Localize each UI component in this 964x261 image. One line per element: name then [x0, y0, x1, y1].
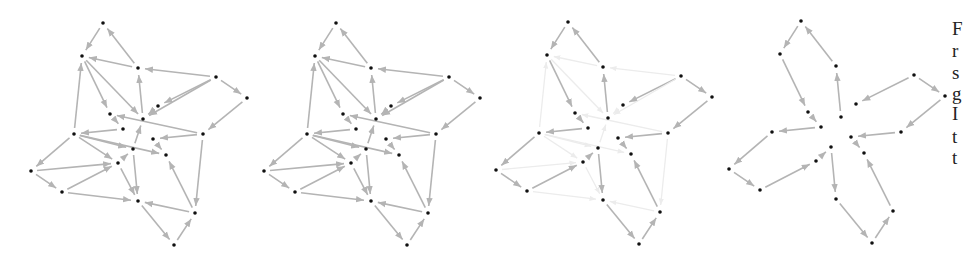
caption-line-6: t: [952, 127, 957, 146]
node-C: [834, 64, 838, 68]
graph-panel-4: [0, 0, 950, 261]
edge-T-S: [875, 217, 889, 238]
edge-K-L: [858, 133, 895, 137]
caption-line-4: g: [952, 84, 962, 103]
edge-R-T: [840, 204, 868, 238]
node-B: [778, 52, 782, 56]
caption-line-7: t: [952, 148, 957, 167]
edge-B-G: [783, 59, 805, 105]
node-O: [814, 159, 818, 163]
caption-line-5: I: [952, 104, 958, 123]
node-T: [870, 241, 874, 245]
node-P: [727, 167, 731, 171]
edge-O-M: [820, 152, 826, 157]
edges: [734, 26, 940, 238]
edge-H-C: [837, 73, 841, 111]
edge-Q-O: [765, 164, 810, 187]
edge-L-N: [855, 142, 860, 148]
node-S: [891, 209, 895, 213]
edge-J-P: [734, 136, 767, 165]
node-G: [806, 110, 810, 114]
edge-P-Q: [734, 172, 754, 186]
edge-E-K: [906, 100, 940, 128]
node-D: [912, 73, 916, 77]
caption-line-2: r: [952, 41, 958, 60]
node-J: [770, 130, 774, 134]
node-I: [819, 125, 823, 129]
node-H: [839, 115, 843, 119]
edge-M-R: [832, 153, 836, 192]
caption-text-fragment: F r s g I t t: [950, 0, 964, 261]
edge-C-A: [805, 27, 832, 62]
node-F: [854, 102, 858, 106]
node-L: [849, 135, 853, 139]
node-M: [829, 145, 833, 149]
nodes: [727, 19, 947, 245]
node-N: [862, 151, 866, 155]
caption-line-3: s: [952, 63, 959, 82]
graph-diagram-4: [0, 0, 950, 261]
edge-I-J: [779, 128, 815, 132]
node-A: [799, 19, 803, 23]
edge-D-F: [862, 78, 908, 101]
node-R: [834, 197, 838, 201]
node-K: [899, 130, 903, 134]
node-E: [943, 94, 947, 98]
edge-D-E: [919, 78, 939, 92]
edge-S-N: [867, 159, 890, 205]
caption-line-1: F: [952, 19, 963, 38]
edge-A-B: [784, 26, 798, 48]
node-Q: [758, 188, 762, 192]
edge-G-I: [812, 117, 817, 122]
